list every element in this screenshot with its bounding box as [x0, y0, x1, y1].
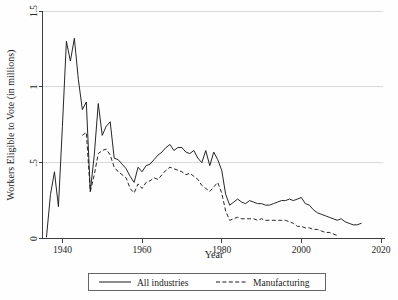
line-chart: 19401960198020002020 0.511.5 Year Worker…	[0, 0, 398, 300]
x-tick-label-1960: 1960	[133, 245, 152, 255]
legend-label-manufacturing: Manufacturing	[253, 278, 310, 288]
y-tick-label-1.5: 1.5	[29, 5, 39, 17]
y-tick-label-.5: .5	[29, 159, 39, 166]
x-tick-label-2000: 2000	[292, 245, 311, 255]
chart-figure: 19401960198020002020 0.511.5 Year Worker…	[0, 0, 398, 300]
x-tick-label-2020: 2020	[372, 245, 391, 255]
chart-legend: All industries Manufacturing	[89, 274, 326, 291]
chart-background	[0, 0, 398, 300]
x-axis-title: Year	[205, 249, 224, 260]
y-tick-label-1: 1	[29, 84, 39, 89]
x-tick-label-1940: 1940	[53, 245, 72, 255]
y-axis-title: Workers Eligible to Vote (in millions)	[5, 50, 17, 201]
y-tick-label-0: 0	[29, 236, 39, 241]
legend-label-all-industries: All industries	[137, 278, 189, 288]
